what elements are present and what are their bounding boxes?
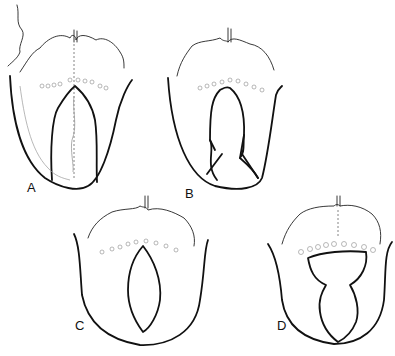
tongue-diagram-figure bbox=[0, 0, 395, 356]
panel-d bbox=[268, 196, 392, 344]
panel-label-a: A bbox=[27, 180, 36, 195]
panel-b bbox=[168, 28, 282, 189]
panel-label-d: D bbox=[277, 318, 286, 333]
panel-c bbox=[74, 196, 208, 345]
panel-label-b: B bbox=[185, 186, 194, 201]
panel-a bbox=[8, 5, 132, 189]
panel-label-c: C bbox=[75, 318, 84, 333]
